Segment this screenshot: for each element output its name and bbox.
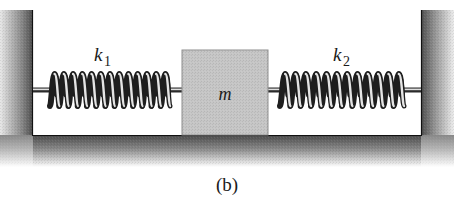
- spring-k1: [33, 74, 182, 106]
- spring-k1-label: k 1: [94, 44, 111, 69]
- spring-k2-label-sub: 2: [343, 54, 350, 69]
- mass-label: m: [219, 84, 232, 104]
- spring-k2-label-main: k: [333, 44, 342, 65]
- spring-mass-diagram: m k 1 k 2 (b): [0, 0, 454, 198]
- spring-k2-label: k 2: [333, 44, 350, 69]
- floor: [0, 135, 454, 167]
- spring-k2: [268, 74, 421, 106]
- spring-k1-label-sub: 1: [104, 54, 111, 69]
- spring-k1-label-main: k: [94, 44, 103, 65]
- figure-caption: (b): [0, 174, 454, 196]
- diagram-canvas: m k 1 k 2: [0, 0, 454, 198]
